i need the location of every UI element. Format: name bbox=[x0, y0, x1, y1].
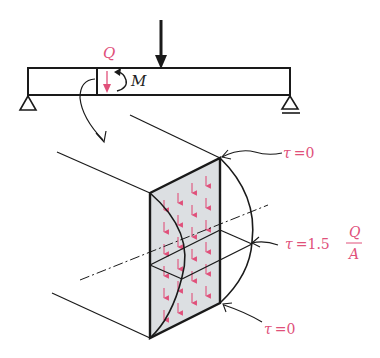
fraction-numerator: Q bbox=[349, 224, 361, 240]
svg-text:τ=1.5: τ=1.5 bbox=[285, 236, 330, 252]
tau-symbol: τ bbox=[283, 145, 291, 161]
beam-body bbox=[28, 68, 290, 95]
annotation-middle: τ=1.5 Q A bbox=[252, 224, 362, 262]
equals-sign: = bbox=[296, 236, 308, 252]
shear-force-label: Q bbox=[103, 44, 115, 62]
equals-sign: = bbox=[275, 321, 287, 337]
annotation-bottom: τ=0 bbox=[223, 303, 295, 337]
tau-value: 0 bbox=[286, 321, 295, 337]
moment-label: M bbox=[130, 72, 147, 90]
tau-value: 0 bbox=[305, 145, 314, 161]
shear-stress-diagram: Q M bbox=[0, 0, 380, 358]
svg-text:τ=0: τ=0 bbox=[264, 321, 295, 337]
shear-parabola-right bbox=[220, 158, 253, 303]
svg-text:τ=0: τ=0 bbox=[283, 145, 314, 161]
tau-symbol: τ bbox=[285, 236, 293, 252]
load-arrow-icon bbox=[155, 20, 167, 69]
fraction-denominator: A bbox=[347, 246, 359, 262]
annotation-top: τ=0 bbox=[222, 145, 314, 161]
pin-support-icon bbox=[20, 96, 36, 110]
beam: Q M bbox=[20, 20, 300, 113]
equals-sign: = bbox=[294, 145, 306, 161]
roller-support-icon bbox=[282, 96, 300, 113]
moment-arrow-icon bbox=[114, 68, 126, 91]
coefficient: 1.5 bbox=[307, 236, 329, 252]
tau-symbol: τ bbox=[264, 321, 272, 337]
detail-pointer-arrow-icon bbox=[80, 79, 106, 142]
beam-segment-3d bbox=[52, 115, 268, 338]
shear-arrow-icon bbox=[103, 71, 111, 93]
